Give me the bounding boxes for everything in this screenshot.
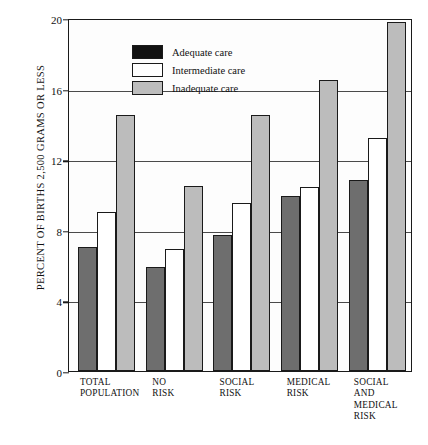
- x-axis-label-line: RISK: [354, 411, 408, 422]
- legend-swatch-inadequate-icon: [132, 81, 163, 95]
- y-axis-title: PERCENT OF BIRTHS 2,500 GRAMS OR LESS: [35, 18, 46, 338]
- legend-label-intermediate: Intermediate care: [172, 65, 245, 76]
- legend-item-intermediate: Intermediate care: [132, 63, 245, 77]
- x-axis-labels: TOTALPOPULATIONNORISKSOCIALRISKMEDICALRI…: [68, 377, 412, 439]
- x-axis-label-line: POPULATION: [80, 388, 139, 399]
- x-axis-label-line: RISK: [152, 388, 206, 399]
- x-axis-category-label: TOTALPOPULATION: [76, 377, 139, 439]
- x-axis-category-label: SOCIAL ANDMEDICALRISK: [350, 377, 408, 439]
- x-axis-label-line: MEDICAL: [287, 377, 341, 388]
- x-axis-label-line: SOCIAL: [220, 377, 274, 388]
- x-axis-label-line: MEDICAL: [354, 400, 408, 411]
- plot-area: 048121620 Adequate care Intermediate car…: [68, 19, 412, 372]
- bar: [116, 115, 135, 371]
- bar-group: [77, 20, 136, 371]
- bar: [368, 138, 387, 371]
- bar: [232, 203, 251, 371]
- y-axis-tick-label: 8: [28, 226, 69, 238]
- y-axis-tick-label: 0: [28, 367, 69, 379]
- x-axis-label-line: RISK: [220, 388, 274, 399]
- x-axis-label-line: SOCIAL AND: [354, 377, 408, 400]
- bar-group: [348, 20, 407, 371]
- bar: [349, 180, 368, 371]
- bar: [213, 235, 232, 371]
- bar: [165, 249, 184, 371]
- legend-label-inadequate: Inadequate care: [172, 83, 238, 94]
- legend-swatch-adequate-icon: [132, 45, 163, 59]
- bar: [319, 80, 338, 371]
- bar: [146, 267, 165, 371]
- x-axis-category-label: NORISK: [148, 377, 206, 439]
- bar: [387, 22, 406, 371]
- legend-item-adequate: Adequate care: [132, 45, 245, 59]
- bar-chart-figure: PERCENT OF BIRTHS 2,500 GRAMS OR LESS 04…: [0, 0, 428, 445]
- x-axis-category-label: SOCIALRISK: [216, 377, 274, 439]
- chart-legend: Adequate care Intermediate care Inadequa…: [132, 45, 245, 95]
- bar: [281, 196, 300, 371]
- x-axis-label-line: NO: [152, 377, 206, 388]
- x-axis-label-line: TOTAL: [80, 377, 139, 388]
- y-axis-tick-label: 12: [28, 155, 69, 167]
- bar: [184, 186, 203, 371]
- bar: [97, 212, 116, 371]
- y-axis-tick-label: 4: [28, 296, 69, 308]
- x-axis-category-label: MEDICALRISK: [283, 377, 341, 439]
- bar: [78, 247, 97, 371]
- bar: [300, 187, 319, 371]
- y-axis-tick-label: 20: [28, 14, 69, 26]
- bar: [251, 115, 270, 371]
- legend-item-inadequate: Inadequate care: [132, 81, 245, 95]
- legend-label-adequate: Adequate care: [172, 47, 232, 58]
- bar-group: [280, 20, 339, 371]
- x-axis-label-line: RISK: [287, 388, 341, 399]
- y-axis-tick-label: 16: [28, 85, 69, 97]
- legend-swatch-intermediate-icon: [132, 63, 163, 77]
